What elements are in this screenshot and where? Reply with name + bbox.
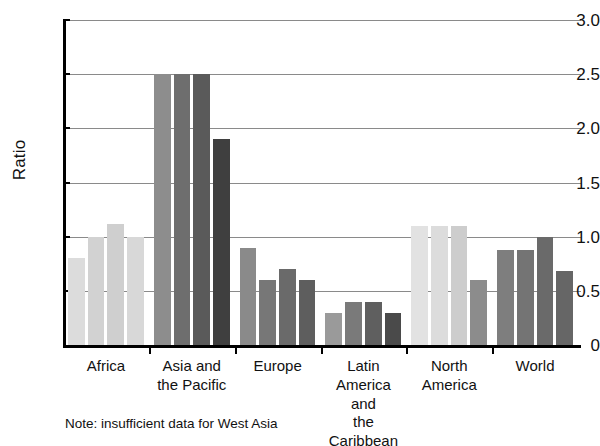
- bar: [68, 258, 85, 345]
- bar: [365, 302, 382, 345]
- clipped-chart-title: Ratio of female to male enrolment: [150, 0, 580, 6]
- x-axis-label: World: [492, 357, 578, 446]
- bar: [345, 302, 362, 345]
- bar: [537, 237, 554, 345]
- x-axis-label: Africa: [63, 357, 149, 446]
- bar-group: [492, 20, 578, 345]
- bar: [213, 139, 230, 345]
- bar: [411, 226, 428, 345]
- bar-groups: [63, 20, 578, 345]
- bar: [154, 74, 171, 345]
- bar: [107, 224, 124, 345]
- bar-group: [235, 20, 321, 345]
- bar: [497, 250, 514, 345]
- bar: [451, 226, 468, 345]
- bar: [259, 280, 276, 345]
- x-tick-mark: [492, 345, 494, 354]
- x-tick-mark: [235, 345, 237, 354]
- x-axis-label: NorthAmerica: [406, 357, 492, 446]
- bar: [174, 74, 191, 345]
- bar: [127, 237, 144, 345]
- y-axis-title: Ratio: [10, 120, 30, 200]
- x-axis-labels: AfricaAsia andthe PacificEuropeLatin Ame…: [63, 357, 578, 446]
- x-tick-mark: [149, 345, 151, 354]
- x-tick-mark: [321, 345, 323, 354]
- bar: [240, 248, 257, 346]
- bar-group: [63, 20, 149, 345]
- bar: [325, 313, 342, 346]
- bar: [470, 280, 487, 345]
- bar: [517, 250, 534, 345]
- bar: [299, 280, 316, 345]
- bar-group: [320, 20, 406, 345]
- bar: [193, 74, 210, 345]
- bar: [279, 269, 296, 345]
- bar: [385, 313, 402, 346]
- bar-chart-figure: Ratio of female to male enrolment Ratio …: [0, 0, 600, 446]
- bar: [556, 271, 573, 345]
- bar-group: [406, 20, 492, 345]
- x-axis-label: Asia andthe Pacific: [149, 357, 235, 446]
- bar-group: [149, 20, 235, 345]
- x-tick-mark: [406, 345, 408, 354]
- x-axis-label: Europe: [235, 357, 321, 446]
- bar: [431, 226, 448, 345]
- chart-note: Note: insufficient data for West Asia: [65, 416, 278, 431]
- bar: [88, 237, 105, 345]
- x-axis-label: Latin Americaandthe Caribbean: [320, 357, 406, 446]
